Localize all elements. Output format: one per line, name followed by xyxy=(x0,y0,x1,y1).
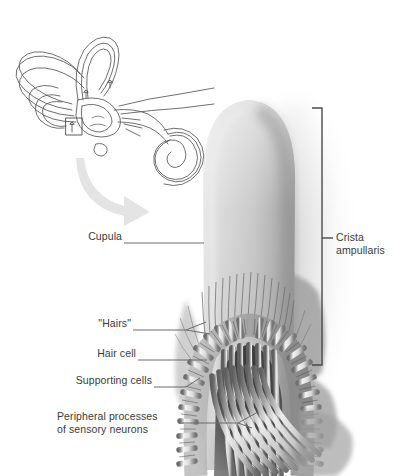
hair-cells-inner xyxy=(224,345,280,476)
left-flank-tissue xyxy=(175,300,222,440)
leader-hairs xyxy=(133,322,206,330)
peripheral-processes-bundle xyxy=(212,367,344,476)
leader-peripheral-processes-2 xyxy=(238,423,252,428)
label-crista-ampullaris: Crista ampullaris xyxy=(336,231,394,257)
leader-peripheral-processes xyxy=(179,412,258,423)
magnification-arrow xyxy=(76,158,150,226)
hair-bundles xyxy=(175,272,311,362)
crista-cavity xyxy=(214,344,284,476)
leader-hairs-2 xyxy=(186,330,210,334)
crista-ampullaris-bracket xyxy=(312,108,333,365)
label-peripheral-processes: Peripheral processes of sensory neurons xyxy=(57,410,182,436)
crista-ampullaris-figure: Cupula "Hairs" Hair cell Supporting cell… xyxy=(0,0,396,476)
label-cupula: Cupula xyxy=(20,230,122,243)
cupula-body xyxy=(203,100,295,470)
label-hair-cell: Hair cell xyxy=(20,347,136,360)
sensory-epithelium-arch xyxy=(179,319,321,476)
label-hairs: "Hairs" xyxy=(20,317,131,330)
leader-supporting-cells xyxy=(154,378,200,387)
connective-tissue-stipple xyxy=(260,271,337,448)
basal-tissue-stipple xyxy=(300,410,353,476)
label-supporting-cells: Supporting cells xyxy=(20,374,152,387)
bony-labyrinth-inset xyxy=(16,37,214,185)
